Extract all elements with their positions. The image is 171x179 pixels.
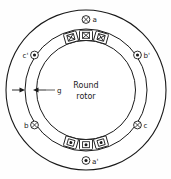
rotor-label-line1: Round bbox=[73, 81, 98, 90]
terminal-label-b-prime: b' bbox=[144, 51, 151, 60]
terminal-marker-a-prime bbox=[82, 157, 90, 165]
terminal-label-c-prime: c' bbox=[23, 51, 29, 60]
terminal-marker-c-prime bbox=[31, 51, 39, 59]
terminal-label-b: b bbox=[24, 121, 29, 130]
terminal-label-a: a bbox=[93, 15, 97, 24]
figure-canvas: g Round rotor a b' c a' bbox=[0, 0, 171, 179]
terminal-marker-b-prime bbox=[134, 51, 142, 59]
terminal-label-c: c bbox=[144, 121, 148, 130]
terminal-label-a-prime: a' bbox=[92, 157, 98, 166]
machine-cross-section-diagram: g Round rotor a b' c a' bbox=[0, 0, 171, 179]
terminal-marker-a bbox=[82, 16, 90, 24]
cross-marker-icon bbox=[97, 34, 105, 42]
dot-marker-icon bbox=[67, 139, 75, 147]
terminal-marker-b bbox=[31, 121, 39, 129]
terminal-marker-c bbox=[134, 121, 142, 129]
dot-marker-icon bbox=[83, 142, 90, 148]
rotor-label-line2: rotor bbox=[76, 92, 96, 101]
cross-marker-icon bbox=[83, 32, 90, 38]
dot-marker-icon bbox=[97, 139, 105, 147]
cross-marker-icon bbox=[67, 34, 75, 42]
gap-label: g bbox=[57, 86, 62, 95]
